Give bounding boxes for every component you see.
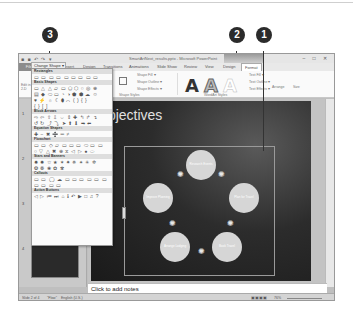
vertical-scrollbar[interactable] (325, 99, 334, 287)
smartart-tools-context-header (224, 54, 264, 63)
sparkle-connector-icon: ✺ (217, 170, 226, 179)
title-bar: ■ ■ ↶ ↷ ▾ SmartArtNext_results.pptx - Mi… (19, 54, 334, 63)
window-controls[interactable]: – □ ✕ (302, 55, 330, 61)
shape-effects-button[interactable]: Shape Effects ▾ (137, 87, 162, 91)
larger-shape-button[interactable] (119, 77, 127, 85)
thumbnail-number: 2 (22, 156, 24, 161)
sparkle-connector-icon: ✺ (226, 219, 235, 228)
text-fill-button[interactable]: Text Fill ▾ (249, 73, 264, 77)
thumbnail-number: 3 (22, 201, 24, 206)
smartart-node[interactable]: Research Events (186, 150, 216, 180)
slide-editor: Objectives Research Events Plan for Trav… (88, 99, 326, 285)
shape-fill-button[interactable]: Shape Fill ▾ (137, 73, 156, 77)
wordart-style-1[interactable]: A (185, 75, 199, 96)
tab-format[interactable]: Format (241, 63, 262, 71)
status-bar: Slide 2 of 4 "Flow" English (U.S.) ▣▣▣▣ … (19, 293, 334, 301)
sparkle-connector-icon: ✺ (197, 247, 206, 256)
group-wordart-styles: WordArt Styles (204, 93, 227, 97)
callout-1: 1 (256, 27, 272, 43)
tab-slide-show[interactable]: Slide Show (157, 64, 177, 69)
zoom-slider[interactable] (287, 298, 322, 299)
zoom-level[interactable]: 76% (274, 296, 281, 300)
theme-name: "Flow" (47, 296, 57, 300)
page: 3 2 ■ ■ ↶ ↷ ▾ SmartArtNext_results.pptx … (0, 0, 353, 327)
text-effects-button[interactable]: Text Effects ▾ (249, 87, 270, 91)
sparkle-connector-icon: ✺ (176, 170, 185, 179)
shape-outline-button[interactable]: Shape Outline ▾ (137, 80, 162, 84)
edit-in-2d-button[interactable]: Edit in 2-D (21, 83, 31, 91)
tab-animations[interactable]: Animations (129, 64, 149, 69)
smartart-node[interactable]: Arrange Lodging (160, 232, 190, 262)
thumbnail-number: 4 (22, 246, 24, 251)
smartart-node[interactable]: Book Travel (212, 232, 242, 262)
slide-indicator: Slide 2 of 4 (22, 296, 40, 300)
separator (177, 73, 178, 95)
callout-3: 3 (42, 27, 58, 43)
slide-canvas[interactable]: Objectives Research Events Plan for Trav… (91, 101, 311, 281)
shape-row[interactable]: ◁ ▷ ⏮ ⏭ ⌂ ℹ ↶ ▶ □ ♫ ? (32, 193, 112, 199)
view-buttons[interactable]: ▣▣▣▣ (251, 296, 267, 300)
group-shape-styles: Shape Styles (119, 93, 140, 97)
text-outline-button[interactable]: Text Outline ▾ (249, 80, 270, 84)
shape-gallery-dropdown: Rectangles ▭ ▭ ▭ ▭ ▭ ▭ ▭ ▭ ▭ Basic Shape… (31, 68, 113, 246)
smartart-node[interactable]: Improve Planning (143, 183, 173, 213)
text-pane-handle[interactable] (122, 207, 126, 219)
tab-view[interactable]: View (205, 64, 214, 69)
smartart-graphic[interactable]: Research Events Plan for Travel Book Tra… (124, 146, 275, 276)
size-button[interactable]: Size (293, 85, 300, 89)
notes-pane[interactable]: Click to add notes (88, 283, 327, 293)
sparkle-connector-icon: ✺ (168, 219, 177, 228)
tab-smartart-design[interactable]: Design (223, 64, 235, 69)
callout-1-leader (263, 51, 264, 151)
window-title: SmartArtNext_results.pptx - Microsoft Po… (129, 56, 217, 61)
language-indicator[interactable]: English (U.S.) (61, 296, 83, 300)
smartart-node[interactable]: Plan for Travel (229, 183, 259, 213)
slide-thumbnail[interactable] (31, 244, 79, 278)
tab-review[interactable]: Review (184, 64, 197, 69)
thumbnail-number: 1 (22, 111, 24, 116)
arrange-button[interactable]: Arrange (272, 85, 284, 89)
top-rule (0, 2, 353, 3)
callout-2: 2 (229, 27, 245, 43)
